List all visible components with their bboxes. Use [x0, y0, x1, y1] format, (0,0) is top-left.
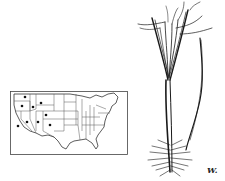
grass-plant-drawing: [130, 0, 225, 181]
artist-signature: W.: [207, 165, 218, 175]
us-map-svg: [10, 91, 128, 155]
plant-svg: [130, 0, 225, 181]
us-range-map: [10, 91, 128, 155]
